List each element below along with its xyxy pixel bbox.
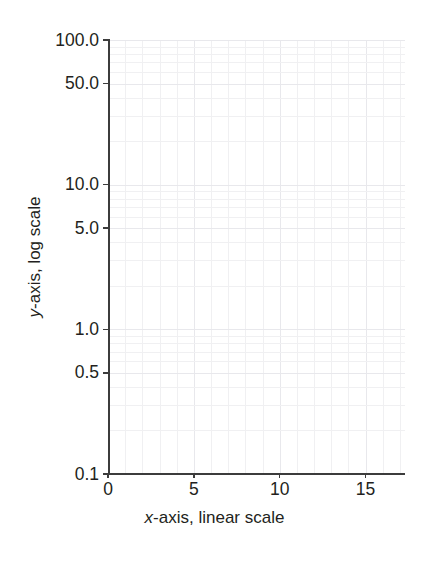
x-axis-tick <box>107 473 109 478</box>
gridline-vertical <box>211 40 212 474</box>
y-axis-tick <box>103 329 108 331</box>
gridline-horizontal <box>108 405 405 406</box>
gridline-vertical <box>142 40 143 474</box>
x-axis-tick-label: 5 <box>164 481 224 499</box>
gridline-vertical <box>245 40 246 474</box>
gridline-horizontal <box>108 116 405 117</box>
gridline-horizontal <box>108 47 405 48</box>
gridline-vertical <box>400 40 401 474</box>
y-axis-title-text: -axis, log scale <box>25 197 44 309</box>
gridline-vertical <box>194 40 195 474</box>
gridline-horizontal <box>108 260 405 261</box>
x-axis-tick-label: 0 <box>78 481 138 499</box>
gridline-vertical <box>331 40 332 474</box>
y-axis-tick-label: 1.0 <box>75 321 99 339</box>
x-axis-tick-label: 15 <box>336 481 396 499</box>
gridline-horizontal <box>108 62 405 63</box>
gridline-horizontal <box>108 373 405 374</box>
chart-figure: 100.050.010.05.01.00.50.1 051015 x-axis,… <box>0 0 429 562</box>
y-axis-tick-label: 0.5 <box>75 364 99 382</box>
y-axis-tick <box>103 184 108 186</box>
y-axis-title-variable: y <box>25 309 44 318</box>
gridline-horizontal <box>108 191 405 192</box>
gridline-horizontal <box>108 329 405 330</box>
gridline-horizontal <box>108 242 405 243</box>
gridline-horizontal <box>108 207 405 208</box>
gridline-horizontal <box>108 430 405 431</box>
gridline-horizontal <box>108 352 405 353</box>
gridline-vertical <box>297 40 298 474</box>
gridline-vertical <box>314 40 315 474</box>
y-axis-tick <box>103 83 108 85</box>
x-axis-title: x-axis, linear scale <box>0 508 429 528</box>
gridline-vertical <box>228 40 229 474</box>
gridline-vertical <box>348 40 349 474</box>
gridline-horizontal <box>108 361 405 362</box>
gridline-horizontal <box>108 54 405 55</box>
gridline-horizontal <box>108 72 405 73</box>
y-axis-line <box>108 39 110 475</box>
gridline-vertical <box>383 40 384 474</box>
gridline-horizontal <box>108 343 405 344</box>
x-axis-title-variable: x <box>145 508 154 527</box>
y-axis-tick <box>103 372 108 374</box>
y-axis-tick-label: 100.0 <box>55 32 99 50</box>
x-axis-tick <box>365 473 367 478</box>
gridline-vertical <box>263 40 264 474</box>
gridline-vertical <box>177 40 178 474</box>
gridline-horizontal <box>108 286 405 287</box>
gridline-horizontal <box>108 185 405 186</box>
gridline-vertical <box>366 40 367 474</box>
gridline-horizontal <box>108 217 405 218</box>
plot-area <box>108 40 405 474</box>
y-axis-tick-label: 50.0 <box>65 75 99 93</box>
gridline-horizontal <box>108 84 405 85</box>
gridline-horizontal <box>108 336 405 337</box>
gridline-vertical <box>280 40 281 474</box>
y-axis-tick <box>103 227 108 229</box>
gridline-vertical <box>125 40 126 474</box>
gridline-horizontal <box>108 40 405 41</box>
x-axis-line <box>108 473 405 475</box>
gridline-vertical <box>160 40 161 474</box>
gridline-horizontal <box>108 228 405 229</box>
y-axis-title: y-axis, log scale <box>18 40 52 474</box>
y-axis-tick-label: 5.0 <box>75 220 99 238</box>
y-axis-tick-label: 10.0 <box>65 176 99 194</box>
gridline-horizontal <box>108 199 405 200</box>
gridline-horizontal <box>108 98 405 99</box>
x-axis-tick <box>193 473 195 478</box>
y-axis-tick <box>103 39 108 41</box>
gridline-horizontal <box>108 387 405 388</box>
x-axis-tick-label: 10 <box>250 481 310 499</box>
x-axis-tick <box>279 473 281 478</box>
gridline-horizontal <box>108 141 405 142</box>
x-axis-title-text: -axis, linear scale <box>153 508 284 527</box>
